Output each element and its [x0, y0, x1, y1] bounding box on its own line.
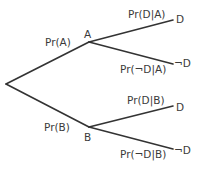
edge-b-not-d-label: Pr(¬D|B) [120, 149, 166, 160]
node-a-label: A [84, 29, 91, 40]
edge-root-to-a [6, 42, 89, 84]
outcome-a-not-d-label: ¬D [174, 58, 191, 69]
edge-a-not-d-label: Pr(¬D|A) [120, 64, 166, 75]
edge-a-d-label: Pr(D|A) [128, 9, 165, 20]
edge-b-d-label: Pr(D|B) [127, 95, 164, 106]
edge-b-to-not-d [89, 127, 173, 149]
outcome-a-d-label: D [176, 14, 184, 25]
edge-a-to-d [89, 20, 173, 42]
outcome-b-not-d-label: ¬D [174, 145, 191, 156]
edge-root-a-label: Pr(A) [45, 37, 71, 48]
edge-a-to-not-d [89, 42, 173, 64]
outcome-b-d-label: D [176, 102, 184, 113]
node-b-label: B [84, 132, 91, 143]
edge-b-to-d [89, 106, 173, 127]
probability-tree [0, 0, 203, 169]
edge-root-b-label: Pr(B) [44, 122, 70, 133]
